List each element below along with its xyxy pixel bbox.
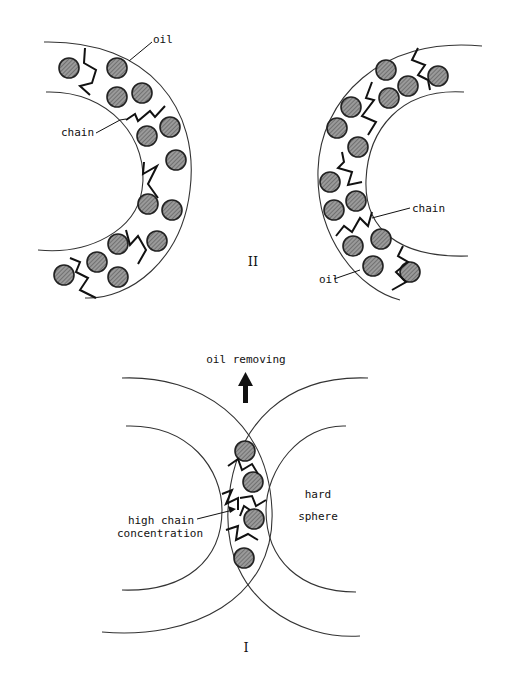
left-sphere-outer-arc [102, 378, 272, 633]
left-oil-leader [129, 42, 152, 61]
right-sphere-inner-arc [266, 426, 356, 592]
left-chain-leader [96, 119, 126, 133]
hard-sphere-label-line1: hard [305, 488, 332, 501]
left-shell-outer-arc [44, 42, 191, 298]
panel-II-label: II [248, 254, 258, 269]
right-chain-leader [372, 208, 410, 218]
contact-region: oil removing high chain concentration ha… [102, 353, 368, 636]
left-oil-label: oil [153, 33, 173, 46]
oil-removing-label: oil removing [206, 353, 285, 366]
left-coated-sphere: oil chain [38, 33, 191, 298]
left-shell-inner-arc [38, 92, 143, 251]
right-oil-label: oil [319, 273, 339, 286]
panel-I-label: I [243, 640, 248, 655]
right-coated-sphere: chain oil [318, 45, 482, 300]
left-sphere-inner-arc [122, 426, 222, 590]
left-polymer-chains [70, 48, 165, 298]
right-oil-particles [320, 60, 448, 282]
high-chain-label-line1: high chain [128, 514, 194, 527]
diagram-canvas: oil chain [0, 0, 508, 684]
left-chain-label: chain [61, 126, 94, 139]
right-chain-label: chain [412, 202, 445, 215]
right-sphere-outer-arc [228, 378, 368, 636]
high-chain-label-line2: concentration [117, 527, 203, 540]
oil-removing-arrow [238, 372, 253, 403]
hard-sphere-label-line2: sphere [298, 510, 338, 523]
